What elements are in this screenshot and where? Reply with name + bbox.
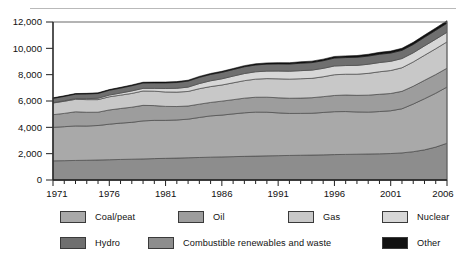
legend-label-coal-peat: Coal/peat: [95, 212, 135, 222]
legend-item-combustible-renewables[interactable]: Combustible renewables and waste: [148, 237, 331, 249]
legend-label-nuclear: Nuclear: [417, 212, 449, 222]
y-axis-tick-label: 0: [37, 174, 42, 185]
legend-row-2: Hydro Combustible renewables and waste O…: [0, 232, 466, 254]
x-axis-tick-label: 1986: [211, 188, 232, 199]
legend-label-hydro: Hydro: [95, 238, 120, 248]
x-axis-tick-label: 2001: [380, 188, 401, 199]
y-axis-tick-label: 10,000: [13, 43, 42, 54]
stacked-area-chart: 02,0004,0006,0008,00010,00012,000 197119…: [0, 14, 466, 202]
legend-item-coal-peat[interactable]: Coal/peat: [60, 211, 135, 223]
y-axis-tick-label: 4,000: [18, 122, 42, 133]
x-axis-tick-label: 1996: [324, 188, 345, 199]
legend-swatch-gas: [288, 211, 314, 223]
x-axis-tick-label: 2006: [432, 188, 453, 199]
legend-swatch-combustible-renewables: [148, 237, 174, 249]
legend-swatch-nuclear: [382, 211, 408, 223]
legend-item-nuclear[interactable]: Nuclear: [382, 211, 449, 223]
y-axis-tick-group: 02,0004,0006,0008,00010,00012,000: [13, 16, 53, 185]
legend-swatch-other: [382, 237, 408, 249]
y-axis-tick-label: 8,000: [18, 69, 42, 80]
x-axis-tick-label: 1971: [46, 188, 67, 199]
y-axis-tick-label: 2,000: [18, 148, 42, 159]
legend-item-gas[interactable]: Gas: [288, 211, 340, 223]
x-axis-tick-label: 1976: [99, 188, 120, 199]
legend-label-oil: Oil: [213, 212, 225, 222]
x-axis-tick-group: 19711976198119861991199620012006: [46, 180, 453, 199]
top-divider-rule: [30, 8, 456, 9]
y-axis-tick-label: 12,000: [13, 16, 42, 27]
chart-canvas: 02,0004,0006,0008,00010,00012,000 197119…: [0, 14, 466, 202]
area-series-group: [53, 21, 447, 180]
legend-item-oil[interactable]: Oil: [178, 211, 225, 223]
legend-swatch-oil: [178, 211, 204, 223]
legend-label-gas: Gas: [323, 212, 340, 222]
legend-row-1: Coal/peat Oil Gas Nuclear: [0, 206, 466, 228]
legend-item-hydro[interactable]: Hydro: [60, 237, 120, 249]
y-axis-tick-label: 6,000: [18, 95, 42, 106]
legend-swatch-hydro: [60, 237, 86, 249]
legend-label-other: Other: [417, 238, 440, 248]
x-axis-tick-label: 1981: [155, 188, 176, 199]
chart-legend: Coal/peat Oil Gas Nuclear Hydro Combusti…: [0, 206, 466, 264]
legend-label-combustible-renewables: Combustible renewables and waste: [183, 238, 331, 248]
legend-swatch-coal-peat: [60, 211, 86, 223]
legend-item-other[interactable]: Other: [382, 237, 440, 249]
x-axis-tick-label: 1991: [267, 188, 288, 199]
